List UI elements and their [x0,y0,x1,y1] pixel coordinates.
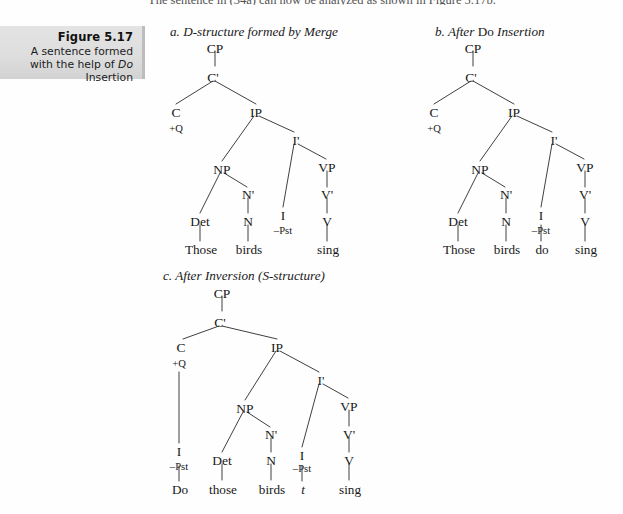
tree-c-node-vbar: V' [343,428,355,442]
tree-a-node-n: N [243,215,253,229]
tree-c-node-i-in-ip: I [300,449,305,463]
tree-c-word-n: birds [259,483,285,496]
tree-c-node-nbar: N' [265,428,277,442]
edge-b-ip-np [480,116,512,161]
edge-c-ip-np [245,351,276,400]
tree-a-node-i: I [281,209,286,223]
tree-c-node-c: C [176,341,185,355]
edge-a-ip-ibar [259,116,294,132]
edge-c-ip-ibar [280,351,319,372]
tree-c-node-n: N [266,454,276,468]
edge-c-np-det [222,412,243,452]
tree-a-node-ibar: I' [293,134,300,148]
tree-b-word-det: Those [443,243,475,256]
tree-b-node-vbar: V' [579,188,591,202]
edge-b-cbar-ip [473,81,514,104]
tree-c-word-c: Do [172,483,188,496]
tree-b-node-ibar: I' [551,134,558,148]
tree-b-node-c: C [429,106,438,120]
tree-c-node-pst-in-c: –Pst [170,462,188,473]
tree-c-word-trace: t [301,483,305,496]
tree-b-node-vp: VP [576,161,593,175]
tree-a-title-text: D-structure formed by Merge [183,24,338,39]
figure-page: The sentence in (34a) can now be analyze… [0,0,623,514]
tree-b-node-pst: –Pst [532,226,550,237]
tree-b-node-cbar: C' [465,71,476,85]
tree-b-node-det: Det [448,215,468,229]
tree-a-node-cbar: C' [207,71,218,85]
tree-c-title: c. After Inversion (S-structure) [163,268,325,284]
tree-b-node-ip: IP [508,106,520,120]
tree-b-node-cp: CP [465,42,482,56]
tree-c-node-q: +Q [172,359,186,370]
tree-b-title-letter: b. [435,24,445,39]
figure-number-label: Figure 5.17 [6,30,133,44]
tree-a-title-letter: a. [170,24,180,39]
tree-a-node-c: C [171,106,180,120]
tree-b-node-np: NP [471,163,488,177]
tree-a-word-n: birds [236,243,262,256]
tree-b-node-n: N [501,215,511,229]
tree-b-title-before: After [448,24,478,39]
edge-a-ip-np [222,116,254,161]
tree-a-node-nbar: N' [242,188,254,202]
tree-c-node-ip: IP [271,341,283,355]
tree-a-node-np: NP [213,163,230,177]
tree-c-node-np: NP [236,402,253,416]
tree-c-node-vp: VP [340,400,357,414]
tree-c-node-cp: CP [214,287,231,301]
edge-b-np-det [458,173,478,213]
edge-b-ibar-i [541,144,552,207]
edge-b-ibar-vp [556,144,584,159]
tree-c-node-cbar: C' [214,316,225,330]
tree-c-title-letter: c. [163,268,172,283]
tree-a-node-v: V [322,215,332,229]
tree-a-word-v: sing [317,243,339,256]
edge-a-ibar-vp [298,144,326,159]
tree-b-node-i: I [539,209,544,223]
tree-a-node-ip: IP [250,106,262,120]
tree-c-node-ibar: I' [318,374,325,388]
edge-a-ibar-i [283,144,294,207]
tree-c-node-pst-in-ip: –Pst [293,464,311,475]
edge-a-cbar-ip [215,81,256,104]
tree-a-node-vp: VP [318,161,335,175]
tree-b-node-v: V [580,215,590,229]
edge-c-ibar-vp [323,384,348,398]
tree-c-node-v: V [344,454,354,468]
tree-a-node-q: +Q [169,124,183,135]
tree-c-node-det: Det [212,454,232,468]
tree-b-title: b. After Do Insertion [435,24,545,40]
caption-part-italic: Do [118,58,133,71]
tree-c-word-v: sing [339,483,361,496]
running-text: The sentence in (34a) can now be analyze… [148,0,568,5]
tree-a-node-pst: –Pst [274,226,292,237]
tree-a-node-det: Det [190,215,210,229]
edge-c-cbar-ip [222,326,277,339]
tree-a-word-det: Those [185,243,217,256]
tree-a-node-cp: CP [207,42,224,56]
figure-caption-box: Figure 5.17 A sentence formed with the h… [0,26,145,79]
edge-a-np-det [200,173,220,213]
tree-c-title-text: After Inversion (S-structure) [175,268,325,283]
tree-b-node-q: +Q [427,124,441,135]
edge-b-ip-ibar [517,116,552,132]
tree-a-node-vbar: V' [321,188,333,202]
tree-b-node-nbar: N' [500,188,512,202]
tree-c-node-i-in-c: I [177,445,182,459]
tree-b-word-v: sing [575,243,597,256]
edge-c-ibar-i [302,384,319,447]
figure-caption-text: A sentence formed with the help of Do In… [6,45,133,85]
caption-part-2: Insertion [86,71,133,84]
tree-b-title-after: Insertion [494,24,545,39]
tree-c-word-det: those [209,483,237,496]
tree-b-title-roman: Do [478,24,494,39]
tree-b-word-i: do [535,243,548,256]
tree-a-title: a. D-structure formed by Merge [170,24,338,40]
tree-b-word-n: birds [494,243,520,256]
